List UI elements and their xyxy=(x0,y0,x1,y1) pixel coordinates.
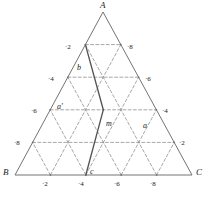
tick-right-1: ·6 xyxy=(145,76,150,83)
tick-bottom-2: ·6 xyxy=(114,181,119,188)
tick-right-3: ·2 xyxy=(179,140,184,147)
node-label-c: c xyxy=(90,168,94,176)
tick-bottom-0: ·2 xyxy=(42,181,47,188)
tick-left-3: ·8 xyxy=(14,140,19,147)
vertex-label-B: B xyxy=(3,168,9,177)
tick-right-0: ·8 xyxy=(127,44,132,51)
tick-bottom-1: ·4 xyxy=(78,181,83,188)
ternary-triangle-figure: ABCba'mac·2·4·6·8·8·6·4·2·2·4·6·8 xyxy=(0,0,210,200)
node-label-m: m xyxy=(106,120,112,128)
triangle-outline xyxy=(15,12,192,175)
diagram-canvas xyxy=(0,0,210,200)
node-label-a2: a' xyxy=(57,103,63,111)
node-label-b: b xyxy=(77,64,81,72)
node-label-a: a xyxy=(143,122,147,130)
vertex-label-C: C xyxy=(196,168,202,177)
tick-bottom-3: ·8 xyxy=(150,181,155,188)
tick-right-2: ·4 xyxy=(162,108,167,115)
tick-left-2: ·6 xyxy=(31,108,36,115)
tick-left-1: ·4 xyxy=(48,76,53,83)
vertex-label-A: A xyxy=(100,1,106,10)
tick-left-0: ·2 xyxy=(65,44,70,51)
